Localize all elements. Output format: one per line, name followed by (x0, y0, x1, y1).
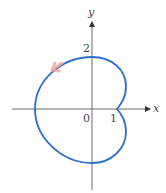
cardioid-curve (35, 57, 126, 163)
origin-label: 0 (83, 113, 90, 124)
y-tick-label: 2 (83, 43, 90, 54)
polar-plot (0, 0, 166, 193)
direction-arrow-icon (52, 63, 62, 71)
y-axis-label: y (88, 7, 94, 18)
x-tick-label: 1 (110, 113, 117, 124)
x-axis-label: x (153, 103, 159, 114)
